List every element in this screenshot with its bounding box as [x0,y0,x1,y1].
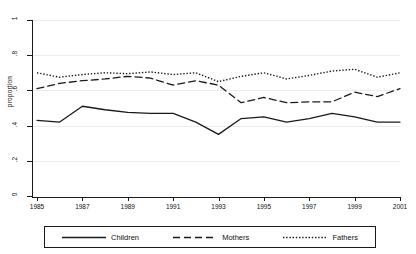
legend-label: Mothers [222,233,249,242]
legend-label: Children [111,233,139,242]
chart-legend: ChildrenMothersFathers [44,226,376,248]
series-line-children [37,106,400,134]
legend-item-mothers[interactable]: Mothers [173,233,249,242]
legend-key-dashed [173,234,217,241]
series-line-mothers [37,76,400,102]
legend-item-children[interactable]: Children [62,233,139,242]
legend-key-solid [62,234,106,241]
plot-area: proportion 1.8.6.4.20 198519871989199119… [0,0,416,210]
legend-item-fathers[interactable]: Fathers [283,233,357,242]
legend-key-dotted [283,234,327,241]
legend-label: Fathers [332,233,357,242]
series-lines [0,0,416,210]
chart-root: proportion 1.8.6.4.20 198519871989199119… [0,0,416,254]
